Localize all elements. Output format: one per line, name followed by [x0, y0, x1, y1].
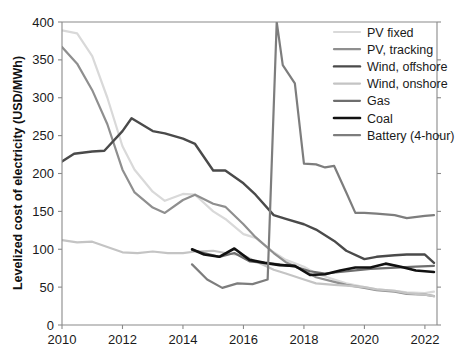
- x-tick-label: 2012: [108, 332, 137, 347]
- legend-label-gas: Gas: [367, 94, 390, 108]
- chart-container: 050100150200250300350400 201020122014201…: [0, 0, 457, 361]
- y-axis-title: Levelized cost of electricity (USD/MWh): [11, 56, 25, 290]
- y-tick-label: 0: [47, 318, 54, 333]
- x-tick-label: 2014: [169, 332, 198, 347]
- x-tick-label: 2020: [350, 332, 379, 347]
- legend-label-coal: Coal: [367, 112, 393, 126]
- y-tick-label: 100: [32, 242, 54, 257]
- legend-label-wind-onshore: Wind, onshore: [367, 77, 448, 91]
- legend-label-wind-offshore: Wind, offshore: [367, 60, 447, 74]
- y-tick-label: 250: [32, 128, 54, 143]
- y-tick-label: 400: [32, 15, 54, 30]
- legend-label-pv-fixed: PV fixed: [367, 26, 414, 40]
- legend-label-battery-4-hour: Battery (4-hour): [367, 129, 455, 143]
- y-tick-label: 150: [32, 204, 54, 219]
- x-axis-ticks: 2010201220142016201820202022: [48, 325, 440, 347]
- y-tick-label: 50: [40, 280, 54, 295]
- x-tick-label: 2016: [229, 332, 258, 347]
- legend-label-pv-tracking: PV, tracking: [367, 43, 433, 57]
- x-tick-label: 2010: [48, 332, 77, 347]
- y-tick-label: 300: [32, 90, 54, 105]
- x-tick-label: 2022: [410, 332, 439, 347]
- y-tick-label: 200: [32, 166, 54, 181]
- lcoe-line-chart: 050100150200250300350400 201020122014201…: [0, 0, 457, 361]
- y-tick-label: 350: [32, 52, 54, 67]
- x-tick-label: 2018: [289, 332, 318, 347]
